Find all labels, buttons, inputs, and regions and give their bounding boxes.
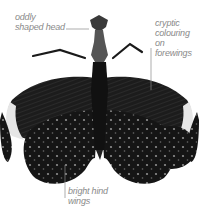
annotation-cryptic-colouring-forewings: cryptic colouring on forewings	[155, 18, 199, 58]
abdomen-tip	[96, 150, 103, 160]
annotation-bright-hind-wings: bright hind wings	[68, 186, 128, 206]
insect-figure: oddly shaped head cryptic colouring on f…	[0, 0, 199, 210]
annotation-oddly-shaped-head: oddly shaped head	[15, 12, 75, 32]
thorax	[91, 30, 108, 62]
legs	[33, 44, 142, 58]
head	[90, 15, 108, 30]
